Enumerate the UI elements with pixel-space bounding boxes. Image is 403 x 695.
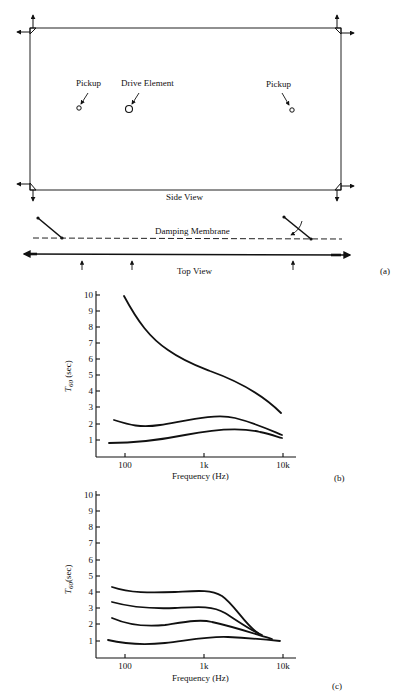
- corner-bracket-top-left-icon: [17, 15, 36, 34]
- svg-text:5: 5: [89, 571, 94, 581]
- top-view-label: Top View: [177, 266, 212, 276]
- chart-c-curve-4: [108, 637, 280, 644]
- suspension-arm-left: [36, 216, 63, 239]
- chart-b-x-ticks: 100 1k 10k: [118, 453, 290, 470]
- svg-text:1k: 1k: [200, 661, 210, 671]
- svg-text:6: 6: [89, 354, 94, 364]
- pickup-right-arrow-icon: [282, 93, 289, 105]
- chart-c-y-axis-label: T60(sec): [63, 564, 75, 594]
- svg-text:8: 8: [89, 322, 94, 332]
- svg-text:2: 2: [89, 419, 94, 429]
- svg-text:10k: 10k: [276, 661, 290, 671]
- svg-text:4: 4: [89, 386, 94, 396]
- damping-membrane-line: [33, 238, 342, 239]
- drive-element-label: Drive Element: [121, 78, 174, 88]
- damping-membrane-label: Damping Membrane: [155, 226, 230, 236]
- pickup-left-icon: [77, 106, 81, 110]
- pickup-left-arrow-icon: [81, 93, 88, 104]
- plate-top-view-line: [24, 254, 350, 255]
- svg-text:9: 9: [89, 506, 94, 516]
- svg-text:6: 6: [89, 555, 94, 565]
- svg-text:9: 9: [89, 306, 94, 316]
- chart-b-x-axis-label: Frequency (Hz): [172, 471, 229, 481]
- panel-c-label: (c): [332, 681, 342, 691]
- chart-c: 10 9 8 7 6 5 4 3 2 1 100 1k 10k Frequenc…: [63, 490, 296, 683]
- pickup-right-label: Pickup: [266, 79, 292, 89]
- drive-element-icon: [126, 106, 133, 113]
- svg-text:10: 10: [84, 290, 94, 300]
- svg-text:100: 100: [118, 661, 132, 671]
- corner-bracket-top-right-icon: [335, 15, 354, 34]
- suspension-arm-right: [282, 215, 312, 240]
- svg-text:100: 100: [118, 460, 132, 470]
- svg-text:7: 7: [89, 538, 94, 548]
- chart-b-y-ticks: 10 9 8 7 6 5 4 3 2 1: [84, 290, 100, 445]
- panel-b-label: (b): [334, 473, 345, 483]
- corner-bracket-bottom-left-icon: [17, 183, 36, 201]
- chart-c-y-ticks: 10 9 8 7 6 5 4 3 2 1: [84, 490, 100, 646]
- svg-text:8: 8: [89, 522, 94, 532]
- svg-text:1: 1: [89, 435, 94, 445]
- svg-text:5: 5: [89, 370, 94, 380]
- chart-b-curve-3: [109, 429, 282, 443]
- panel-a-label: (a): [380, 266, 390, 276]
- svg-text:10k: 10k: [276, 460, 290, 470]
- svg-text:7: 7: [89, 338, 94, 348]
- chart-c-x-axis-label: Frequency (Hz): [172, 673, 229, 683]
- svg-text:10: 10: [84, 490, 94, 500]
- figure-canvas: Pickup Drive Element Pickup Side View Da…: [0, 0, 403, 695]
- chart-b-curve-1: [124, 296, 281, 413]
- chart-c-x-ticks: 100 1k 10k: [118, 654, 290, 671]
- svg-text:3: 3: [89, 603, 94, 613]
- pickup-left-label: Pickup: [76, 78, 102, 88]
- drive-element-arrow-icon: [132, 93, 139, 104]
- chart-c-curve-1: [112, 587, 258, 633]
- svg-text:1: 1: [89, 636, 94, 646]
- svg-text:1k: 1k: [200, 460, 210, 470]
- side-view-label: Side View: [166, 192, 204, 202]
- chart-b: 10 9 8 7 6 5 4 3 2 1 100 1k 10k Frequenc…: [63, 290, 296, 481]
- svg-text:3: 3: [89, 402, 94, 412]
- svg-text:4: 4: [89, 587, 94, 597]
- corner-bracket-bottom-right-icon: [335, 183, 354, 201]
- pickup-right-icon: [290, 108, 294, 112]
- svg-text:2: 2: [89, 619, 94, 629]
- chart-b-y-axis-label: T60 (sec): [63, 360, 75, 392]
